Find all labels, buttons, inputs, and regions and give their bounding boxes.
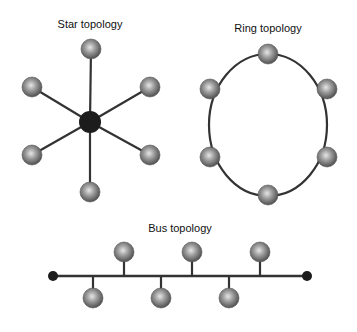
ring-node <box>258 185 278 205</box>
bus-node-upper <box>182 242 202 262</box>
ring-topology: Ring topology <box>200 22 337 205</box>
star-topology-title: Star topology <box>58 18 123 30</box>
star-node <box>22 145 42 165</box>
star-topology: Star topology <box>22 18 160 202</box>
bus-node-upper <box>250 242 270 262</box>
bus-node-lower <box>83 288 103 308</box>
ring-node <box>317 147 337 167</box>
bus-node-lower <box>219 288 239 308</box>
bus-topology-title: Bus topology <box>148 222 212 234</box>
star-node <box>80 182 100 202</box>
bus-node-lower <box>151 288 171 308</box>
ring-node <box>200 147 220 167</box>
ring-loop <box>209 54 327 196</box>
star-node <box>81 39 101 59</box>
bus-node-upper <box>114 242 134 262</box>
bus-terminator <box>302 271 312 281</box>
star-node <box>140 77 160 97</box>
bus-terminator <box>48 271 58 281</box>
network-topology-diagram: Star topology Ring topology Bus topology <box>0 0 357 332</box>
star-node <box>22 77 42 97</box>
star-hub <box>79 111 101 133</box>
ring-node <box>200 79 220 99</box>
ring-nodes <box>200 44 337 205</box>
ring-topology-title: Ring topology <box>234 22 302 34</box>
star-node <box>140 145 160 165</box>
ring-node <box>317 79 337 99</box>
ring-node <box>258 44 278 64</box>
bus-topology: Bus topology <box>48 222 312 308</box>
